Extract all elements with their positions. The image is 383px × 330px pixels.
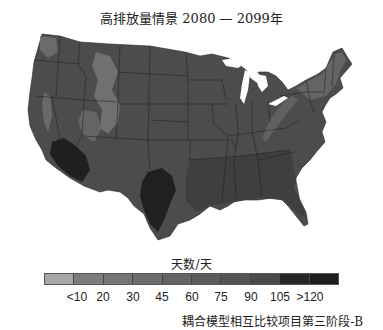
colorbar-segment	[221, 274, 250, 284]
colorbar-segment	[251, 274, 280, 284]
colorbar-segment	[192, 274, 221, 284]
colorbar-segment	[104, 274, 133, 284]
tick-label: 20	[96, 290, 109, 304]
tick-label: 60	[185, 290, 198, 304]
tick-label: 75	[214, 290, 227, 304]
tick-label: <10	[67, 290, 87, 304]
colorbar-segment	[163, 274, 192, 284]
colorbar	[44, 273, 339, 285]
legend-unit-label: 天数/天	[0, 255, 383, 272]
northeast-region	[296, 52, 346, 100]
colorbar-segment	[310, 274, 338, 284]
tick-label: 45	[155, 290, 168, 304]
colorbar-segment	[45, 274, 74, 284]
tick-label: 105	[270, 290, 290, 304]
data-source-label: 耦合模型相互比较项目第三阶段-B	[182, 312, 363, 329]
tick-label: 90	[244, 290, 257, 304]
us-outline	[28, 34, 352, 240]
tick-label: 30	[126, 290, 139, 304]
southeast-warm-region	[186, 150, 306, 218]
colorbar-ticks: <10 20 30 45 60 75 90 105 >120	[0, 290, 383, 306]
colorbar-segment	[74, 274, 103, 284]
tick-label: >120	[296, 290, 323, 304]
colorbar-segment	[133, 274, 162, 284]
colorbar-segment	[280, 274, 309, 284]
us-heat-days-map	[0, 0, 383, 260]
